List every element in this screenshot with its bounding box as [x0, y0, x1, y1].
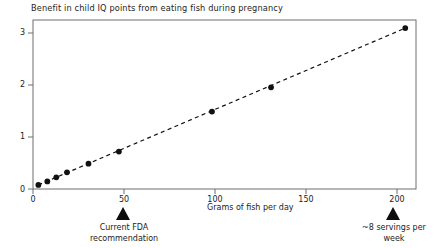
y-tick-label-0: 0 — [13, 185, 25, 194]
data-point — [116, 149, 122, 155]
data-point — [44, 179, 50, 185]
trendline — [38, 28, 405, 185]
fda-recommendation-line-2: recommendation — [79, 234, 169, 245]
y-tick-label-2: 2 — [13, 80, 25, 89]
data-point — [268, 84, 274, 90]
data-point — [209, 109, 215, 115]
eight-servings-annotation: ~8 servings per week — [349, 223, 439, 244]
x-axis-title: Grams of fish per day — [207, 203, 294, 212]
eight-servings-line-1: ~8 servings per — [349, 223, 439, 234]
data-point — [86, 161, 92, 167]
eight-servings-triangle-icon — [386, 207, 400, 220]
chart-figure: Benefit in child IQ points from eating f… — [0, 0, 441, 248]
data-point — [35, 182, 41, 188]
data-point — [402, 25, 408, 31]
eight-servings-line-2: week — [349, 234, 439, 245]
x-axis-ticks — [33, 189, 397, 194]
x-tick-label-150: 150 — [293, 195, 319, 204]
fda-recommendation-line-1: Current FDA — [79, 223, 169, 234]
y-tick-label-1: 1 — [13, 132, 25, 141]
y-tick-label-3: 3 — [13, 28, 25, 37]
data-point — [64, 169, 70, 175]
y-axis-ticks — [28, 33, 33, 189]
x-tick-label-0: 0 — [23, 195, 43, 204]
fda-recommendation-triangle-icon — [116, 207, 130, 220]
x-tick-label-200: 200 — [384, 195, 410, 204]
fda-recommendation-annotation: Current FDA recommendation — [79, 223, 169, 244]
data-point — [53, 174, 59, 180]
x-tick-label-50: 50 — [112, 195, 136, 204]
data-point-group — [35, 25, 408, 188]
